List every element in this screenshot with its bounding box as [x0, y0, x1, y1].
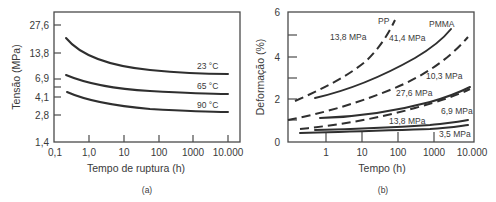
- chart-b-y-tick-labels: 6 4 2 0: [274, 7, 280, 148]
- y-tick-label: 2: [274, 94, 280, 105]
- chart-b-x-tick-labels: 1 10 100 1000 10.000: [323, 147, 488, 158]
- material-label-pp: PP: [378, 16, 390, 26]
- chart-a-x-ticks: [89, 135, 228, 142]
- y-tick-label: 6: [274, 7, 280, 18]
- y-tick-label: 27,6: [30, 20, 50, 31]
- chart-b-y-axis-title: Deformação (%): [254, 39, 266, 115]
- x-tick-label: 10: [356, 147, 368, 158]
- series-label-pmma-3-5: 3,5 MPa: [439, 129, 471, 139]
- x-tick-label: 1: [323, 147, 329, 158]
- y-tick-label: 6,9: [35, 73, 49, 84]
- chart-b-caption: (b): [378, 185, 389, 195]
- x-tick-label: 1000: [423, 147, 446, 158]
- y-tick-label: 4: [274, 52, 280, 63]
- chart-b-y-ticks: [288, 35, 297, 120]
- figure: 27,6 13,8 6,9 4,1 2,8 1,4 0,1 1,0 10 100…: [0, 0, 496, 202]
- x-tick-label: 100: [390, 147, 407, 158]
- series-label-pmma-27-6: 27,6 MPa: [396, 88, 433, 98]
- chart-a-y-tick-labels: 27,6 13,8 6,9 4,1 2,8 1,4: [30, 20, 50, 148]
- y-tick-label: 13,8: [30, 48, 50, 59]
- chart-b-x-ticks: [326, 132, 434, 142]
- chart-b-x-axis-title: Tempo (h): [358, 162, 405, 174]
- chart-a-x-axis-title: Tempo de ruptura (h): [87, 162, 185, 174]
- x-tick-label: 1000: [182, 147, 205, 158]
- series-label-23c: 23 °C: [197, 61, 218, 71]
- chart-a-x-tick-labels: 0,1 1,0 10 100 1000 10.000: [48, 147, 244, 158]
- x-tick-label: 10: [118, 147, 130, 158]
- x-tick-label: 1,0: [82, 147, 96, 158]
- series-label-pmma-41-4: 41,4 MPa: [389, 33, 426, 43]
- material-label-pmma: PMMA: [429, 19, 455, 29]
- y-tick-label: 2,8: [35, 110, 49, 121]
- series-label-pp-13-8: 13,8 MPa: [330, 32, 367, 42]
- x-tick-label: 10.000: [213, 147, 244, 158]
- series-label-pp-6-9: 6,9 MPa: [441, 106, 473, 116]
- chart-a: 27,6 13,8 6,9 4,1 2,8 1,4 0,1 1,0 10 100…: [10, 12, 244, 195]
- x-tick-label: 100: [151, 147, 168, 158]
- y-tick-label: 0: [274, 137, 280, 148]
- y-tick-label: 4,1: [35, 92, 49, 103]
- x-tick-label: 0,1: [48, 147, 62, 158]
- series-label-pmma-13-8: 13,8 MPa: [389, 116, 426, 126]
- x-tick-label: 10.000: [457, 147, 488, 158]
- series-label-90c: 90 °C: [197, 100, 218, 110]
- chart-b: 6 4 2 0 1 10 100 1000 10.000 PP PMMA: [254, 7, 488, 195]
- series-label-pp-10-3: 10,3 MPa: [426, 71, 463, 81]
- series-label-65c: 65 °C: [197, 81, 218, 91]
- chart-a-y-axis-title: Tensão (MPa): [10, 44, 22, 109]
- chart-a-caption: (a): [142, 185, 153, 195]
- chart-a-plot-frame: [54, 12, 240, 142]
- chart-a-y-ticks: [54, 25, 61, 115]
